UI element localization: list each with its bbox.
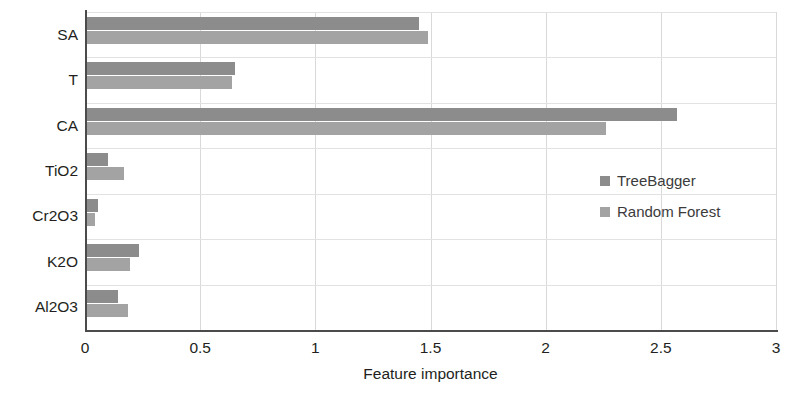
legend-item-random-forest[interactable]: Random Forest — [600, 196, 780, 227]
bar-random-forest — [85, 122, 606, 135]
bar-random-forest — [85, 76, 232, 89]
bar-random-forest — [85, 304, 128, 317]
y-axis-label-al2o3: Al2O3 — [0, 299, 78, 315]
y-axis-label-tio2: TiO2 — [0, 163, 78, 179]
chart-legend: TreeBaggerRandom Forest — [600, 165, 780, 227]
legend-item-treebagger[interactable]: TreeBagger — [600, 165, 780, 196]
y-axis-label-cr2o3: Cr2O3 — [0, 208, 78, 224]
x-axis-tick-labels: 00.511.522.53 — [85, 340, 776, 362]
legend-swatch-icon — [600, 176, 610, 186]
bar-group — [85, 12, 776, 57]
bar-random-forest — [85, 31, 428, 44]
y-axis-label-t: T — [0, 72, 78, 88]
x-axis-tick-2.5: 2.5 — [650, 340, 672, 356]
x-axis-title: Feature importance — [85, 366, 776, 382]
y-axis-label-k2o: K2O — [0, 254, 78, 270]
plot-area: TreeBaggerRandom Forest — [85, 12, 776, 330]
bar-treebagger — [85, 108, 677, 121]
x-axis-tick-3: 3 — [772, 340, 781, 356]
bar-treebagger — [85, 17, 419, 30]
bar-group — [85, 239, 776, 284]
feature-importance-chart: SATCATiO2Cr2O3K2OAl2O3 TreeBaggerRandom … — [0, 0, 796, 411]
bar-group — [85, 57, 776, 102]
bar-random-forest — [85, 258, 130, 271]
x-axis-tick-0: 0 — [81, 340, 90, 356]
legend-swatch-icon — [600, 207, 610, 217]
bar-group — [85, 103, 776, 148]
x-axis-tick-2: 2 — [541, 340, 550, 356]
y-axis-label-sa: SA — [0, 27, 78, 43]
y-axis-line — [85, 10, 87, 332]
bar-random-forest — [85, 167, 124, 180]
y-axis-category-labels: SATCATiO2Cr2O3K2OAl2O3 — [0, 12, 78, 330]
bar-treebagger — [85, 244, 139, 257]
x-axis-tick-1.5: 1.5 — [420, 340, 442, 356]
y-axis-label-ca: CA — [0, 118, 78, 134]
bar-treebagger — [85, 290, 118, 303]
caption-strip — [0, 392, 796, 411]
x-axis-tick-1: 1 — [311, 340, 320, 356]
plot-wrapper: SATCATiO2Cr2O3K2OAl2O3 TreeBaggerRandom … — [0, 0, 796, 340]
legend-label: TreeBagger — [617, 173, 696, 188]
legend-label: Random Forest — [617, 204, 720, 219]
bar-treebagger — [85, 62, 235, 75]
bar-treebagger — [85, 153, 108, 166]
bar-group — [85, 285, 776, 330]
x-axis-tick-0.5: 0.5 — [189, 340, 211, 356]
x-axis-line — [85, 330, 778, 332]
